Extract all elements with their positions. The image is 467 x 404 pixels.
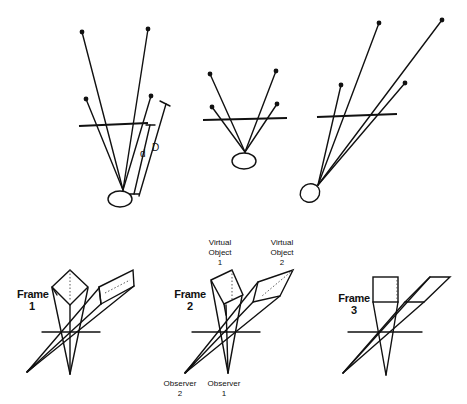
frame-2-label: Frame 2 xyxy=(173,288,207,312)
frame-1-label: Frame 1 xyxy=(17,288,47,312)
virtual-object-2-label: Virtual Object 2 xyxy=(262,238,302,268)
top-panel-3 xyxy=(297,18,445,206)
top-panel-2 xyxy=(203,69,287,169)
observer-2-label: Observer 2 xyxy=(160,379,200,399)
top-panel-1 xyxy=(79,27,170,207)
virtual-object-1-label: Virtual Object 1 xyxy=(200,238,240,268)
frame-2-diagram xyxy=(185,270,293,373)
observer-1-label: Observer 1 xyxy=(204,379,244,399)
distance-label-small: d xyxy=(140,148,146,159)
frame-1-diagram xyxy=(27,270,134,374)
frame-3-label: Frame 3 xyxy=(337,292,371,316)
diagram-canvas xyxy=(0,0,467,404)
distance-label-large: D xyxy=(152,142,159,153)
